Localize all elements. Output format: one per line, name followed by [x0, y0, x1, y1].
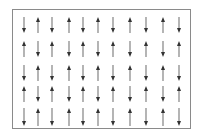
- arrow-down-icon: [161, 86, 165, 102]
- arrow-down-icon: [144, 65, 148, 81]
- arrow-down-icon: [177, 108, 181, 126]
- arrow-up-icon: [81, 86, 85, 102]
- arrow-down-icon: [22, 65, 26, 81]
- arrow-up-icon: [22, 86, 26, 102]
- arrow-up-icon: [144, 41, 148, 57]
- arrow-down-icon: [96, 41, 100, 57]
- arrow-up-icon: [36, 108, 40, 126]
- arrow-down-icon: [81, 108, 85, 126]
- arrow-up-icon: [161, 108, 165, 126]
- arrow-down-icon: [36, 86, 40, 102]
- arrow-up-icon: [36, 65, 40, 81]
- arrow-down-icon: [36, 41, 40, 57]
- arrow-up-icon: [128, 65, 132, 81]
- spin-lattice-diagram: [0, 0, 203, 140]
- arrow-up-icon: [67, 17, 71, 33]
- arrow-down-icon: [22, 108, 26, 126]
- arrow-up-icon: [177, 86, 181, 102]
- arrow-down-icon: [50, 108, 54, 126]
- arrow-down-icon: [128, 41, 132, 57]
- arrow-up-icon: [161, 17, 165, 33]
- arrow-down-icon: [67, 41, 71, 57]
- arrow-down-icon: [177, 17, 181, 33]
- arrow-down-icon: [81, 65, 85, 81]
- arrow-up-icon: [96, 65, 100, 81]
- arrow-down-icon: [22, 17, 26, 33]
- arrow-down-icon: [67, 86, 71, 102]
- arrow-up-icon: [144, 86, 148, 102]
- arrow-up-icon: [50, 86, 54, 102]
- arrow-up-icon: [96, 17, 100, 33]
- arrow-down-icon: [111, 65, 115, 81]
- arrow-up-icon: [111, 41, 115, 57]
- arrow-down-icon: [96, 86, 100, 102]
- arrow-down-icon: [50, 17, 54, 33]
- arrow-up-icon: [81, 41, 85, 57]
- arrow-up-icon: [128, 108, 132, 126]
- arrow-up-icon: [96, 108, 100, 126]
- arrow-down-icon: [177, 65, 181, 81]
- arrow-down-icon: [81, 17, 85, 33]
- arrow-up-icon: [111, 86, 115, 102]
- arrow-up-icon: [177, 41, 181, 57]
- arrow-grid: [0, 0, 203, 140]
- arrow-up-icon: [128, 17, 132, 33]
- arrow-down-icon: [128, 86, 132, 102]
- arrow-up-icon: [67, 65, 71, 81]
- arrow-down-icon: [144, 108, 148, 126]
- arrow-down-icon: [111, 17, 115, 33]
- arrow-up-icon: [22, 41, 26, 57]
- arrow-up-icon: [67, 108, 71, 126]
- arrow-up-icon: [161, 65, 165, 81]
- arrow-down-icon: [50, 65, 54, 81]
- arrow-up-icon: [50, 41, 54, 57]
- arrow-down-icon: [161, 41, 165, 57]
- arrow-down-icon: [144, 17, 148, 33]
- arrow-down-icon: [111, 108, 115, 126]
- arrow-up-icon: [36, 17, 40, 33]
